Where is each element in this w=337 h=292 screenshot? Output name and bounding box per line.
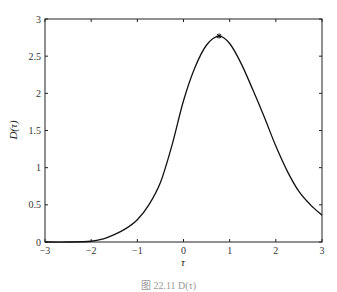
- x-tick-label: 2: [273, 245, 278, 256]
- y-axis-label: D(τ): [7, 120, 20, 141]
- x-axis-ticks: −3−2−10123: [40, 19, 325, 256]
- x-tick-label: 3: [320, 245, 325, 256]
- x-axis-label: τ: [181, 256, 186, 268]
- x-tick-label: −2: [86, 245, 97, 256]
- y-tick-label: 1.5: [29, 125, 42, 136]
- x-tick-label: 0: [181, 245, 186, 256]
- y-tick-label: 3: [36, 14, 41, 25]
- figure-caption: 图 22.11 D(τ): [0, 277, 337, 292]
- peak-marker: [217, 34, 222, 39]
- y-tick-label: 2: [36, 88, 41, 99]
- axes-frame: [45, 19, 322, 242]
- y-tick-label: 0.5: [29, 199, 42, 210]
- x-tick-label: −1: [132, 245, 143, 256]
- x-tick-label: 1: [227, 245, 232, 256]
- y-tick-label: 1: [36, 162, 41, 173]
- y-tick-label: 0: [36, 237, 41, 248]
- x-tick-label: −3: [40, 245, 51, 256]
- data-line: [45, 36, 322, 242]
- y-tick-label: 2.5: [29, 51, 42, 62]
